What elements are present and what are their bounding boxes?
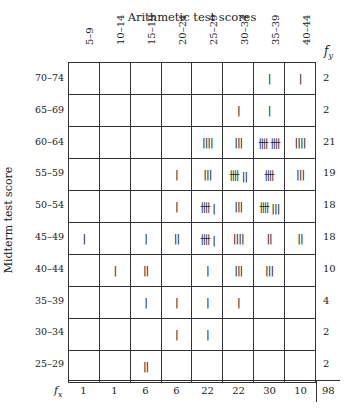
grand-total: 98 — [322, 385, 335, 396]
tally-cell: | — [192, 255, 223, 287]
tally-cell: | — [161, 319, 192, 351]
tally-cell — [99, 319, 130, 351]
row-label: 45–49 — [30, 231, 64, 242]
table-row: |||||||||| — [69, 255, 316, 287]
column-total: 30 — [254, 385, 285, 396]
column-total: 1 — [68, 385, 99, 396]
tally-cell — [223, 63, 254, 95]
tally-cell: 卌 ||| — [254, 191, 285, 223]
fy-header: fy — [324, 44, 333, 60]
tally-cell — [99, 159, 130, 191]
tally-cell — [192, 95, 223, 127]
row-label: 65–69 — [30, 104, 64, 115]
tally-cell: 卌 卌 — [254, 127, 285, 159]
row-label: 70–74 — [30, 72, 64, 83]
tally-cell: | — [130, 287, 161, 319]
tally-cell — [285, 191, 316, 223]
tally-cell: ||| — [223, 127, 254, 159]
tally-cell — [69, 95, 100, 127]
tally-cell — [69, 127, 100, 159]
tally-cell: | — [285, 63, 316, 95]
column-total: 22 — [192, 385, 223, 396]
column-header-label: 30–34 — [239, 15, 250, 45]
tally-cell — [99, 351, 130, 383]
column-total: 1 — [99, 385, 130, 396]
tally-cell: | — [99, 255, 130, 287]
table-row: ||||卌 ||||||||| — [69, 223, 316, 255]
column-header: 40–44 — [285, 26, 316, 58]
table-row: || — [69, 63, 316, 95]
row-total: 19 — [323, 167, 336, 178]
tally-cell — [192, 351, 223, 383]
table-row: |||||||卌 卌|||| — [69, 127, 316, 159]
row-label: 55–59 — [30, 167, 64, 178]
tally-cell — [285, 351, 316, 383]
row-label: 30–34 — [30, 326, 64, 337]
row-label: 60–64 — [30, 136, 64, 147]
tally-cell: | — [161, 287, 192, 319]
tally-cell — [161, 63, 192, 95]
tally-cell — [99, 95, 130, 127]
row-label: 50–54 — [30, 199, 64, 210]
tally-cell — [99, 127, 130, 159]
tally-cell — [285, 319, 316, 351]
tally-cell — [130, 127, 161, 159]
row-total: 2 — [323, 72, 329, 83]
tally-cell — [99, 63, 130, 95]
tally-cell: | — [69, 223, 100, 255]
tally-cell — [285, 287, 316, 319]
tally-cell: ||| — [285, 159, 316, 191]
tally-cell: ||| — [254, 255, 285, 287]
row-total: 2 — [323, 104, 329, 115]
tally-cell: || — [130, 351, 161, 383]
column-header: 10–14 — [99, 26, 130, 58]
column-header: 5–9 — [68, 26, 99, 58]
row-label: 25–29 — [30, 358, 64, 369]
y-axis-label: Midterm test score — [2, 167, 15, 274]
tally-cell — [130, 159, 161, 191]
column-header-label: 5–9 — [84, 27, 95, 45]
tally-cell: || — [161, 223, 192, 255]
tally-cell — [99, 191, 130, 223]
fx-label: fx — [54, 384, 63, 399]
tally-cell: |||| — [223, 223, 254, 255]
tally-cell: ||| — [223, 191, 254, 223]
column-header-label: 15–19 — [146, 15, 157, 45]
total-separator — [316, 380, 317, 402]
column-total: 22 — [223, 385, 254, 396]
tally-cell: |||| — [192, 127, 223, 159]
tally-cell — [223, 351, 254, 383]
tally-grid: |||||||||||卌 卌||||||||卌 ||卌||||卌 ||||卌 |… — [68, 62, 316, 383]
tally-cell — [99, 223, 130, 255]
tally-cell — [161, 127, 192, 159]
row-total: 10 — [323, 263, 336, 274]
tally-cell: | — [254, 95, 285, 127]
column-header: 25–29 — [192, 26, 223, 58]
row-total: 2 — [323, 326, 329, 337]
tally-cell: | — [192, 287, 223, 319]
row-total: 21 — [323, 136, 336, 147]
tally-cell: 卌 || — [223, 159, 254, 191]
tally-cell — [223, 319, 254, 351]
table-row: ||||卌 ||卌||| — [69, 159, 316, 191]
tally-cell — [130, 95, 161, 127]
tally-cell — [69, 159, 100, 191]
row-label: 40–44 — [30, 263, 64, 274]
tally-cell: | — [192, 319, 223, 351]
column-total: 10 — [285, 385, 316, 396]
tally-cell: | — [161, 191, 192, 223]
tally-cell: | — [223, 287, 254, 319]
tally-cell: | — [130, 223, 161, 255]
tally-cell — [192, 63, 223, 95]
row-total: 18 — [323, 231, 336, 242]
tally-cell — [161, 351, 192, 383]
column-header-label: 40–44 — [301, 15, 312, 45]
column-total: 6 — [130, 385, 161, 396]
tally-cell: ||| — [192, 159, 223, 191]
table-row: |卌 ||||卌 ||| — [69, 191, 316, 223]
column-header: 15–19 — [130, 26, 161, 58]
tally-cell: || — [130, 255, 161, 287]
tally-cell: || — [285, 223, 316, 255]
row-total: 4 — [323, 295, 329, 306]
tally-cell — [285, 255, 316, 287]
